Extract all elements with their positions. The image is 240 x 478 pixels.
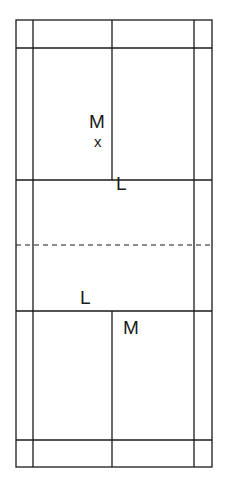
badminton-court-diagram: M x L L M	[0, 0, 240, 478]
player-l-bottom-label: L	[80, 287, 91, 308]
player-m-bottom-label: M	[123, 317, 139, 338]
player-l-top-label: L	[116, 173, 127, 194]
player-m-top-label: M	[89, 111, 105, 132]
shuttle-position-marker: x	[94, 133, 102, 150]
court-outer-boundary	[16, 20, 212, 467]
